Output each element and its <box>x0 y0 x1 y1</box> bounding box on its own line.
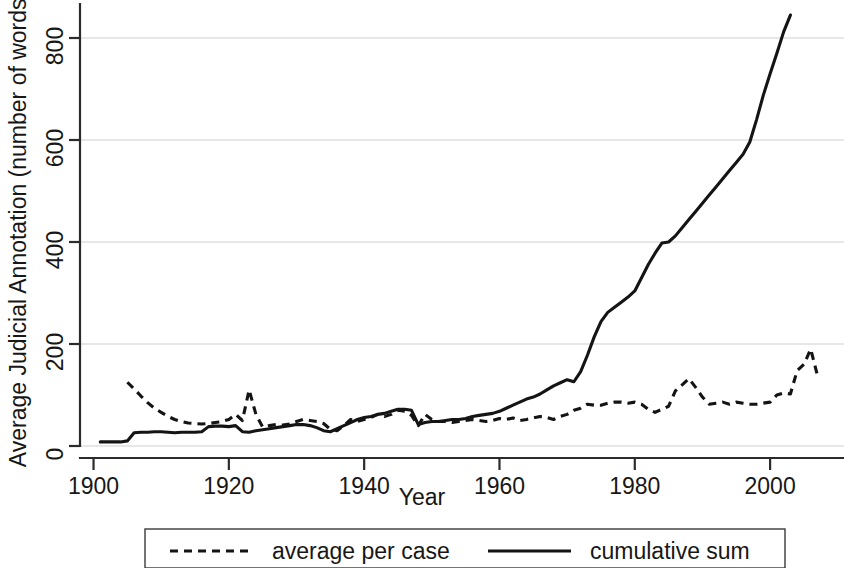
series-average-per-case <box>127 349 817 431</box>
x-tick-label-1920: 1920 <box>203 473 254 499</box>
data-series-group <box>100 15 817 442</box>
y-tick-label-0: 0 <box>42 448 68 461</box>
y-tick-label-400: 400 <box>42 231 68 269</box>
legend-label-average-per-case: average per case <box>272 538 450 564</box>
chart-figure: 0200400600800 190019201940196019802000 Y… <box>0 0 844 568</box>
y-tick-label-600: 600 <box>42 129 68 167</box>
series-cumulative-sum <box>100 15 790 442</box>
x-tick-label-1900: 1900 <box>68 473 119 499</box>
x-axis-ticks <box>94 458 771 470</box>
axes-group <box>69 4 844 470</box>
gridlines-group <box>80 38 844 446</box>
line-chart: 0200400600800 190019201940196019802000 Y… <box>0 0 844 568</box>
y-axis-title: Average Judicial Annotation (number of w… <box>5 0 31 467</box>
y-axis-tick-labels: 0200400600800 <box>42 27 68 461</box>
x-tick-label-2000: 2000 <box>745 473 796 499</box>
chart-legend: average per case cumulative sum <box>145 529 785 568</box>
y-axis-ticks <box>69 38 80 446</box>
x-tick-label-1960: 1960 <box>474 473 525 499</box>
y-tick-label-200: 200 <box>42 333 68 371</box>
x-tick-label-1980: 1980 <box>609 473 660 499</box>
x-tick-label-1940: 1940 <box>339 473 390 499</box>
x-axis-title: Year <box>399 484 446 510</box>
y-tick-label-800: 800 <box>42 27 68 65</box>
legend-label-cumulative-sum: cumulative sum <box>590 538 750 564</box>
